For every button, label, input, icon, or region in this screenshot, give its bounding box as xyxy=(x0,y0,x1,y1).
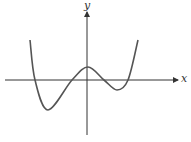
y-axis-label: y xyxy=(84,0,90,11)
x-axis-label: x xyxy=(181,73,187,84)
function-graph xyxy=(0,0,191,142)
function-curve xyxy=(30,40,138,110)
